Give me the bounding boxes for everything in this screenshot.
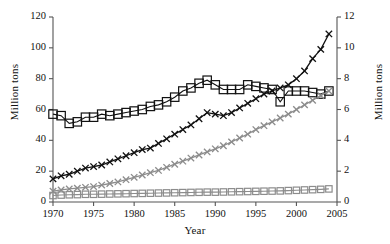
ytick-l-label: 60 xyxy=(20,103,46,114)
ytick-r-label: 2 xyxy=(344,164,370,175)
xtick-label: 1980 xyxy=(114,208,154,219)
xtick-label: 2000 xyxy=(276,208,316,219)
chart-container: Million tons Million tons Year 020406080… xyxy=(0,0,390,244)
ytick-l-label: 80 xyxy=(20,72,46,83)
xtick-label: 1995 xyxy=(236,208,276,219)
ytick-l-label: 40 xyxy=(20,133,46,144)
ytick-l-label: 120 xyxy=(20,10,46,21)
xtick-label: 1990 xyxy=(195,208,235,219)
ytick-l-label: 20 xyxy=(20,164,46,175)
ytick-r-label: 0 xyxy=(344,195,370,206)
xtick-label: 1985 xyxy=(155,208,195,219)
ytick-r-label: 10 xyxy=(344,41,370,52)
ytick-r-label: 8 xyxy=(344,72,370,83)
ytick-l-label: 100 xyxy=(20,41,46,52)
xtick-label: 1970 xyxy=(33,208,73,219)
x-axis-title: Year xyxy=(0,224,390,236)
gray-x-series xyxy=(50,88,332,195)
y-axis-right-title: Million tons xyxy=(372,51,384,133)
y-axis-left-title: Million tons xyxy=(8,51,20,133)
xtick-label: 2005 xyxy=(317,208,357,219)
black-x-series xyxy=(50,31,332,182)
ytick-r-label: 4 xyxy=(344,133,370,144)
ytick-l-label: 0 xyxy=(20,195,46,206)
xtick-label: 1975 xyxy=(74,208,114,219)
ytick-r-label: 6 xyxy=(344,103,370,114)
ytick-r-label: 12 xyxy=(344,10,370,21)
